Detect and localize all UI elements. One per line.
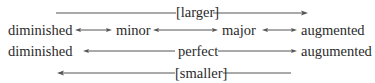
row1-major: major [222,22,256,38]
row1-diminished: diminished [8,22,72,38]
row1-minor: minor [116,22,151,38]
row2-perfect: perfect [178,43,218,59]
larger-label: [larger] [176,4,219,20]
row2-diminished: diminished [8,43,72,59]
row1-augmented: augmented [301,22,365,38]
smaller-label: [smaller] [175,65,227,81]
row2-augumented: augumented [301,43,372,59]
